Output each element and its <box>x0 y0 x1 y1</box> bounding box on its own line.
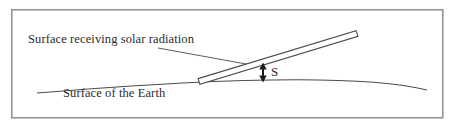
earth-surface-label: Surface of the Earth <box>63 86 165 100</box>
distance-s-label: S <box>271 65 278 79</box>
diagram-canvas: Surface receiving solar radiation Surfac… <box>0 0 449 126</box>
diagram-svg <box>0 0 449 126</box>
arrow-head-down <box>259 76 266 83</box>
frame-border <box>12 10 443 118</box>
receiving-surface-label: Surface receiving solar radiation <box>28 32 194 46</box>
label-leader-line <box>158 48 257 66</box>
